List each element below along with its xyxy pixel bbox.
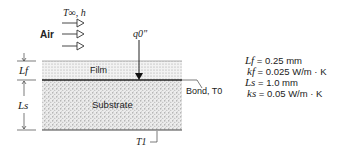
flow-conditions-label: T∞, h	[63, 8, 86, 18]
bond-label: Bond, T0	[186, 87, 222, 96]
heat-flux-arrow	[135, 40, 143, 80]
property-value: = 0.05 W/m · K	[259, 88, 323, 99]
property-row: kf = 0.025 W/m · K	[247, 66, 327, 77]
property-value: = 0.25 mm	[257, 55, 302, 66]
property-row: ks = 0.05 W/m · K	[247, 88, 322, 99]
heat-flux-label: q0"	[133, 29, 147, 39]
substrate-label: Substrate	[92, 100, 133, 110]
film-label: Film	[90, 66, 107, 75]
property-value: = 0.025 W/m · K	[258, 66, 327, 77]
property-value: = 1.0 mm	[258, 77, 298, 88]
film-thickness-label: Lf	[19, 65, 28, 76]
bottom-temperature-label: T1	[136, 137, 147, 147]
air-flow-arrows	[62, 19, 84, 50]
substrate-thickness-label: Ls	[18, 100, 28, 111]
film-layer	[42, 61, 182, 80]
t1-leader-line	[150, 131, 157, 142]
property-symbol: ks	[247, 87, 256, 99]
air-label: Air	[40, 30, 54, 40]
